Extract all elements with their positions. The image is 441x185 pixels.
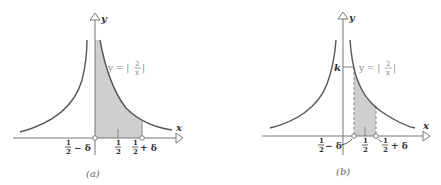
svg-text:y = |: y = |	[107, 63, 129, 74]
caption-a: (a)	[86, 168, 100, 179]
svg-text:x: x	[386, 69, 390, 77]
svg-text:+ δ: + δ	[391, 141, 408, 151]
tick-label-right-b: 1 2 + δ	[382, 136, 408, 154]
svg-text:2: 2	[116, 147, 121, 156]
open-point-origin-a	[93, 136, 98, 141]
svg-text:1: 1	[116, 138, 121, 147]
x-axis-label-b: x	[422, 120, 430, 131]
curve-label-a: y = | 2 x |	[107, 60, 145, 77]
pointer-arrow-right-b	[378, 139, 382, 142]
svg-text:+ δ: + δ	[140, 143, 157, 153]
panel-b: y x k y = | 2 x | 1 2 − δ 1 2 1 2 + δ	[262, 12, 430, 177]
tick-label-right-a: 1 2 + δ	[132, 138, 157, 156]
svg-text:|: |	[393, 63, 396, 74]
tick-label-mid-b: 1 2	[362, 136, 368, 154]
open-point-left-b	[352, 134, 357, 139]
tick-label-left-b: 1 2 − δ	[318, 136, 342, 154]
svg-text:y = |: y = |	[358, 63, 380, 74]
open-point-right-b	[374, 134, 379, 139]
svg-text:− δ: − δ	[74, 143, 91, 153]
svg-text:− δ: − δ	[325, 141, 342, 151]
svg-text:2: 2	[383, 145, 388, 154]
y-axis-label-a: y	[100, 13, 108, 24]
tick-label-left-a: 1 2 − δ	[65, 138, 91, 156]
y-axis-label-b: y	[348, 12, 356, 23]
svg-text:2: 2	[386, 60, 390, 68]
shaded-area-b	[354, 67, 376, 136]
y-axis-arrow-icon	[338, 12, 348, 19]
x-axis-arrow-icon	[176, 133, 183, 143]
panel-a: y x y = | 2 x | 1 2 − δ 1 2 1 2 + δ (	[13, 13, 183, 179]
svg-text:2: 2	[135, 60, 139, 68]
svg-text:2: 2	[66, 147, 71, 156]
svg-text:2: 2	[363, 145, 368, 154]
shaded-area-a	[95, 40, 142, 138]
svg-text:1: 1	[363, 136, 368, 145]
svg-text:1: 1	[66, 138, 71, 147]
curve-label-b: y = | 2 x |	[358, 60, 396, 77]
curve-left-b	[270, 40, 336, 128]
tick-label-mid-a: 1 2	[115, 138, 121, 156]
open-point-right-a	[140, 136, 145, 141]
svg-text:|: |	[142, 63, 145, 74]
k-label-b: k	[334, 62, 341, 73]
y-axis-arrow-icon	[90, 13, 100, 20]
curve-left-a	[20, 40, 87, 132]
x-axis-label-a: x	[175, 122, 183, 133]
x-axis-arrow-icon	[423, 131, 430, 141]
svg-text:2: 2	[133, 147, 138, 156]
svg-text:1: 1	[319, 136, 324, 145]
svg-text:2: 2	[319, 145, 324, 154]
svg-text:1: 1	[133, 138, 138, 147]
svg-text:1: 1	[383, 136, 388, 145]
figure-canvas: y x y = | 2 x | 1 2 − δ 1 2 1 2 + δ (	[0, 0, 441, 185]
svg-text:x: x	[135, 69, 139, 77]
caption-b: (b)	[336, 166, 350, 177]
